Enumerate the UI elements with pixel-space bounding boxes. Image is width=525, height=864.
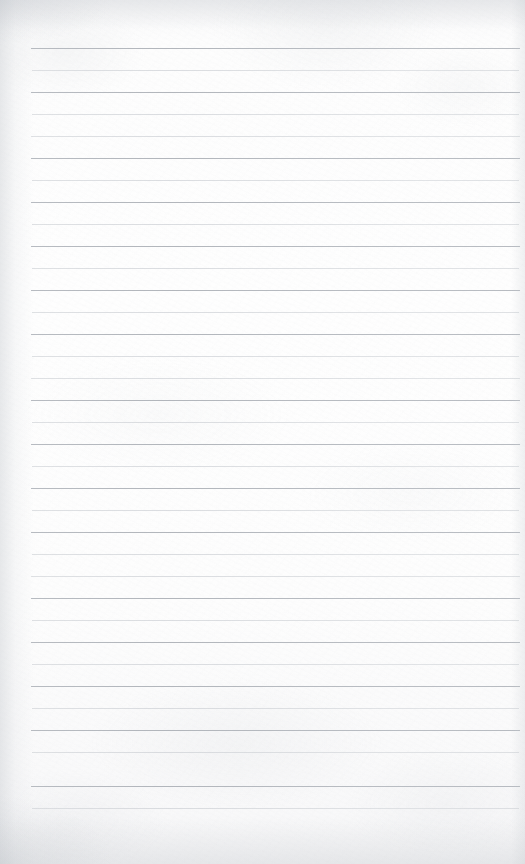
ruled-line [32,224,519,225]
ruled-line [31,444,520,445]
ruled-line [32,664,519,665]
ruled-line [31,92,520,93]
ruled-line [32,752,519,753]
ruled-line [32,356,519,357]
ruled-line [32,114,519,115]
ruled-line [31,378,520,379]
ruled-line [31,334,520,335]
ruled-line [32,554,519,555]
ruled-line [31,158,520,159]
ruled-line [32,620,519,621]
ruled-line [31,290,520,291]
ruled-line [32,708,519,709]
ruled-line [31,246,520,247]
ruled-line [32,510,519,511]
scanned-page [0,0,525,864]
ruled-line [31,576,520,577]
ruled-line [32,180,519,181]
ruled-line [31,730,520,731]
ruled-line [31,400,520,401]
ruled-line [31,598,520,599]
ruled-line [31,642,520,643]
ruled-line [31,488,520,489]
ruled-line [31,532,520,533]
scan-shadow-right [511,0,525,864]
ruled-line [32,70,519,71]
scan-shadow-corner-top-left [0,0,150,60]
scan-shadow-left [0,0,34,864]
ruled-line [32,268,519,269]
ruled-line [31,686,520,687]
ruled-line [31,202,520,203]
ruled-line [32,422,519,423]
ruled-lines-group [0,0,525,864]
ruled-line [32,466,519,467]
scan-shadow-corner-bottom-left [0,774,150,864]
ruled-line [31,136,520,137]
ruled-line [32,312,519,313]
